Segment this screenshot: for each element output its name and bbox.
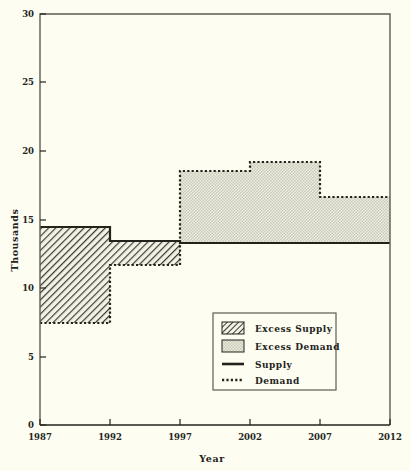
y-tick-label: 0 xyxy=(28,420,34,430)
y-tick-label: 15 xyxy=(22,215,34,225)
x-tick-label: 2007 xyxy=(308,432,332,442)
x-tick-label: 2002 xyxy=(238,432,262,442)
hatch-swatch-icon xyxy=(222,322,244,334)
legend-item-excess-supply: Excess Supply xyxy=(222,322,333,334)
x-tick-label: 2012 xyxy=(378,432,402,442)
supply-demand-step-chart: 30 25 20 15 10 5 0 Thousands 1987 1992 1… xyxy=(0,0,411,471)
y-tick-label: 25 xyxy=(22,77,34,87)
legend-item-label: Excess Demand xyxy=(255,342,340,352)
y-axis-title: Thousands xyxy=(9,208,20,271)
chart-legend: Excess Supply Excess Demand Supply Deman… xyxy=(213,313,340,390)
legend-item-label: Demand xyxy=(255,376,300,386)
y-tick-label: 20 xyxy=(22,146,34,156)
chart-container: 30 25 20 15 10 5 0 Thousands 1987 1992 1… xyxy=(0,0,411,471)
x-tick-label: 1992 xyxy=(98,432,122,442)
y-tick-label: 5 xyxy=(28,352,34,362)
x-tick-label: 1997 xyxy=(168,432,192,442)
legend-item-label: Excess Supply xyxy=(255,324,333,334)
x-axis-title: Year xyxy=(198,453,225,464)
legend-item-excess-demand: Excess Demand xyxy=(222,340,340,352)
y-tick-label: 30 xyxy=(22,9,34,19)
dotted-swatch-icon xyxy=(222,340,244,352)
legend-item-label: Supply xyxy=(255,360,293,370)
y-tick-label: 10 xyxy=(22,283,34,293)
x-tick-label: 1987 xyxy=(28,432,52,442)
